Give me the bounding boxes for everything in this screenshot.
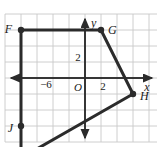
axes xyxy=(11,19,152,138)
coordinate-plane-figure: F G H J y x O −6 2 2 xyxy=(0,0,162,147)
vertex-label-J: J xyxy=(8,121,14,135)
y-axis-label: y xyxy=(90,16,97,30)
x-tick-label-negative-six: −6 xyxy=(40,78,52,90)
x-tick-label-two: 2 xyxy=(100,80,106,92)
vertex-label-F: F xyxy=(4,22,13,36)
figure-svg: F G H J y x O −6 2 2 xyxy=(0,0,162,147)
origin-label: O xyxy=(74,81,82,93)
vertex-dot-G xyxy=(98,27,104,33)
x-axis-label: x xyxy=(143,80,150,94)
vertex-dot-H xyxy=(130,91,136,97)
vertex-label-G: G xyxy=(108,23,117,37)
vertex-dot-J xyxy=(18,123,24,129)
y-tick-label-two: 2 xyxy=(75,51,81,63)
vertex-dot-F xyxy=(18,27,24,33)
